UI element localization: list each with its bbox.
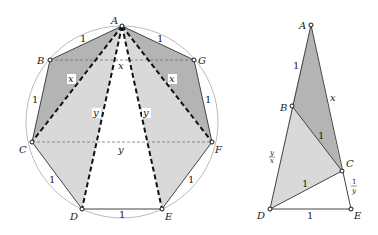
right-label-C: C [346, 158, 354, 169]
right-triangle-figure: A B C D E 1 x 1 1 1 y x 1 y [256, 20, 362, 221]
right-side-AB-label: 1 [293, 60, 299, 71]
right-vertex-E-point [349, 207, 353, 211]
right-side-CD-label: 1 [302, 178, 308, 189]
side-DE-label: 1 [119, 209, 125, 220]
label-C: C [19, 144, 27, 155]
right-label-E: E [353, 210, 362, 221]
diagonal-AD-label: y [92, 107, 99, 118]
right-vertex-D-point [268, 207, 272, 211]
label-G: G [198, 55, 206, 66]
label-E: E [164, 211, 173, 222]
diagonal-AE-label: y [142, 107, 149, 118]
right-side-BD-fraction: y x [269, 149, 275, 165]
vertex-F-point [210, 140, 214, 144]
side-AB-label: 1 [80, 33, 86, 44]
diagonal-AC-label: x [68, 73, 74, 84]
vertex-A-point [120, 24, 124, 28]
svg-text:y: y [351, 187, 357, 195]
right-side-AC-label: x [330, 92, 336, 103]
label-D: D [69, 211, 78, 222]
right-vertex-B-point [290, 104, 294, 108]
right-label-A: A [298, 20, 306, 31]
label-B: B [36, 55, 44, 66]
right-label-B: B [279, 102, 287, 113]
vertex-E-point [160, 207, 164, 211]
vertex-B-point [48, 58, 52, 62]
right-label-D: D [256, 210, 265, 221]
chord-BG-label: x [118, 60, 124, 71]
right-vertex-C-point [340, 169, 344, 173]
right-side-DE-label: 1 [307, 210, 313, 221]
side-AG-label: 1 [157, 33, 163, 44]
right-side-BC-label: 1 [318, 130, 324, 141]
left-heptagon-figure: A B G C F D E 1 1 1 1 1 1 1 x x x y y y [19, 15, 223, 222]
side-FE-label: 1 [188, 174, 194, 185]
diagram-canvas: A B G C F D E 1 1 1 1 1 1 1 x x x y y y [0, 0, 378, 235]
vertex-C-point [30, 140, 34, 144]
right-side-CE-fraction: 1 y [351, 178, 357, 195]
diagonal-AF-label: x [169, 73, 175, 84]
chord-CF-label: y [117, 144, 124, 155]
side-GF-label: 1 [205, 94, 211, 105]
vertex-G-point [192, 58, 196, 62]
side-CD-label: 1 [49, 174, 55, 185]
svg-text:x: x [270, 157, 274, 165]
svg-text:y: y [269, 149, 275, 157]
label-A: A [110, 15, 118, 26]
right-vertex-A-point [309, 23, 313, 27]
vertex-D-point [80, 207, 84, 211]
side-BC-label: 1 [32, 94, 38, 105]
label-F: F [214, 144, 223, 155]
svg-text:1: 1 [352, 178, 356, 186]
